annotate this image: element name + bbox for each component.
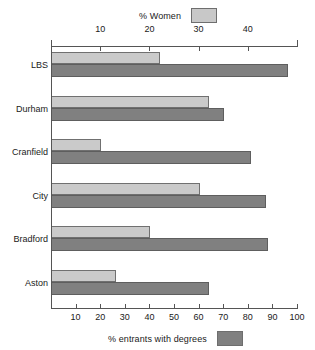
legend-top: % Women xyxy=(139,8,217,23)
axis-bottom-tick xyxy=(272,304,273,309)
axis-top-tick-label: 10 xyxy=(88,24,112,34)
category-labels: LBSDurhamCranfieldCityBradfordAston xyxy=(0,0,48,350)
axis-bottom-tick xyxy=(76,304,77,309)
axis-top-endcap xyxy=(297,40,298,47)
axis-top-tick xyxy=(149,46,150,51)
axis-bottom-tick-label: 100 xyxy=(285,312,309,322)
bar-entrants-with-degrees xyxy=(52,282,209,295)
axis-bottom-tick-label: 90 xyxy=(260,312,284,322)
legend-bottom: % entrants with degrees xyxy=(108,331,243,346)
axis-bottom-tick xyxy=(174,304,175,309)
axis-top-tick-label: 30 xyxy=(187,24,211,34)
axis-top-tick xyxy=(100,46,101,51)
axis-bottom-tick-label: 40 xyxy=(137,312,161,322)
bar-women xyxy=(52,183,200,195)
axis-top-tick xyxy=(199,46,200,51)
bar-women xyxy=(52,139,101,151)
axis-bottom-tick xyxy=(223,304,224,309)
bar-women xyxy=(52,96,209,108)
axis-bottom-tick xyxy=(297,304,298,309)
axis-top-tick-label: 20 xyxy=(137,24,161,34)
bar-entrants-with-degrees xyxy=(52,238,268,251)
axis-top-tick-label: 40 xyxy=(236,24,260,34)
category-label-durham: Durham xyxy=(2,104,48,114)
axis-bottom-tick-label: 60 xyxy=(187,312,211,322)
axis-bottom-tick xyxy=(149,304,150,309)
bar-women xyxy=(52,52,160,64)
legend-top-swatch xyxy=(191,8,217,23)
grouped-bar-chart: % Women % entrants with degrees 10203040… xyxy=(0,0,315,350)
category-label-aston: Aston xyxy=(2,278,48,288)
axis-bottom-tick-label: 70 xyxy=(211,312,235,322)
bar-women xyxy=(52,270,116,282)
bar-entrants-with-degrees xyxy=(52,64,288,77)
legend-top-label: % Women xyxy=(139,11,181,21)
category-label-city: City xyxy=(2,191,48,201)
axis-bottom-tick xyxy=(100,304,101,309)
axis-bottom-tick-label: 10 xyxy=(64,312,88,322)
bar-entrants-with-degrees xyxy=(52,195,266,208)
axis-top-line xyxy=(51,46,297,47)
legend-bottom-label: % entrants with degrees xyxy=(108,334,207,344)
legend-bottom-swatch xyxy=(217,331,243,346)
axis-bottom-tick-label: 80 xyxy=(236,312,260,322)
bar-entrants-with-degrees xyxy=(52,151,251,164)
axis-top-tick xyxy=(248,46,249,51)
axis-bottom-tick-label: 50 xyxy=(162,312,186,322)
axis-bottom-tick xyxy=(125,304,126,309)
category-label-bradford: Bradford xyxy=(2,234,48,244)
bar-women xyxy=(52,226,150,238)
axis-top-endcap xyxy=(51,40,52,47)
category-label-lbs: LBS xyxy=(2,60,48,70)
category-label-cranfield: Cranfield xyxy=(2,147,48,157)
axis-bottom-tick-label: 20 xyxy=(88,312,112,322)
bar-entrants-with-degrees xyxy=(52,108,224,121)
axis-bottom-tick xyxy=(199,304,200,309)
axis-bottom-tick xyxy=(248,304,249,309)
axis-bottom-tick-label: 30 xyxy=(113,312,137,322)
